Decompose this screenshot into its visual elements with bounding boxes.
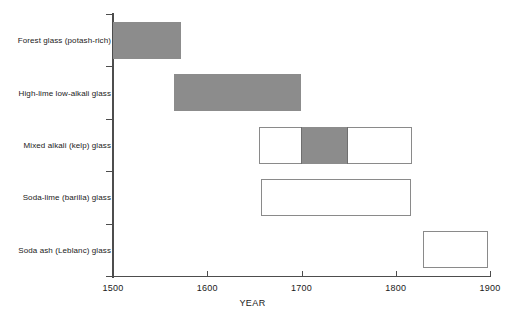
bar-3-highlight-segment: [301, 127, 348, 164]
y-axis-tick: [106, 14, 113, 15]
x-axis-title: YEAR: [0, 298, 505, 308]
category-label: Soda ash (Leblanc) glass: [18, 245, 111, 254]
x-axis-tick-label: 1800: [385, 283, 406, 293]
x-axis-tick: [302, 271, 303, 277]
y-axis-tick: [106, 276, 113, 277]
category-label: Mixed alkali (kelp) glass: [24, 141, 111, 150]
y-axis-tick: [106, 119, 113, 120]
x-axis-tick-label: 1700: [291, 283, 312, 293]
bar-1: [113, 22, 181, 59]
y-axis-tick: [106, 171, 113, 172]
bar-3: [259, 127, 412, 164]
x-axis-tick-label: 1600: [197, 283, 218, 293]
x-axis-tick: [396, 271, 397, 277]
glass-chronology-chart: 15001600170018001900 Forest glass (potas…: [0, 0, 505, 319]
y-axis-tick: [106, 224, 113, 225]
x-axis-tick: [113, 271, 114, 277]
y-axis-tick: [106, 66, 113, 67]
bar-4: [261, 179, 411, 216]
x-axis-tick: [490, 271, 491, 277]
bar-5: [423, 231, 488, 268]
category-label: Soda-lime (barilla) glass: [23, 193, 111, 202]
x-axis-tick-label: 1500: [103, 283, 124, 293]
x-axis-tick-label: 1900: [480, 283, 501, 293]
plot-area: 15001600170018001900 Forest glass (potas…: [0, 0, 505, 319]
bar-2: [174, 74, 301, 111]
x-axis-tick: [207, 271, 208, 277]
category-label: High-lime low-alkali glass: [19, 88, 111, 97]
category-label: Forest glass (potash-rich): [18, 36, 111, 45]
